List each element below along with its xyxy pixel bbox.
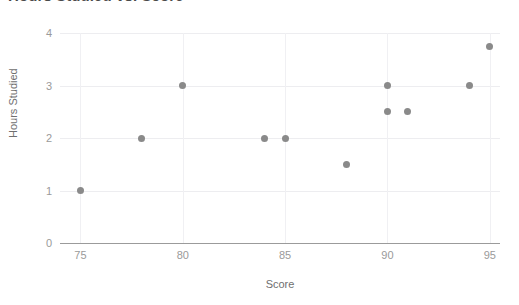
data-point[interactable] bbox=[77, 187, 84, 194]
x-axis-ticks: 7580859095 bbox=[60, 249, 500, 265]
x-axis-label: Score bbox=[0, 278, 519, 290]
axis-baseline bbox=[60, 243, 500, 244]
x-tick-label: 75 bbox=[74, 249, 86, 261]
y-tick-label: 4 bbox=[6, 27, 52, 39]
gridline-vertical bbox=[183, 33, 184, 243]
data-point[interactable] bbox=[282, 135, 289, 142]
scatter-chart: Hours Studied vs. Score 01234 7580859095… bbox=[0, 0, 519, 305]
data-point[interactable] bbox=[261, 135, 268, 142]
chart-title: Hours Studied vs. Score bbox=[8, 0, 184, 4]
data-point[interactable] bbox=[486, 43, 493, 50]
data-point[interactable] bbox=[384, 82, 391, 89]
data-point[interactable] bbox=[466, 82, 473, 89]
data-point[interactable] bbox=[404, 108, 411, 115]
gridline-horizontal bbox=[60, 33, 500, 34]
x-tick-label: 85 bbox=[279, 249, 291, 261]
data-point[interactable] bbox=[138, 135, 145, 142]
gridline-vertical bbox=[387, 33, 388, 243]
data-point[interactable] bbox=[343, 161, 350, 168]
gridline-horizontal bbox=[60, 86, 500, 87]
y-axis-label: Hours Studied bbox=[7, 68, 19, 138]
x-tick-label: 90 bbox=[381, 249, 393, 261]
y-tick-label: 0 bbox=[6, 237, 52, 249]
y-axis-ticks: 01234 bbox=[0, 33, 52, 243]
gridline-vertical bbox=[80, 33, 81, 243]
gridline-horizontal bbox=[60, 191, 500, 192]
gridline-horizontal bbox=[60, 138, 500, 139]
data-point[interactable] bbox=[179, 82, 186, 89]
y-tick-label: 1 bbox=[6, 185, 52, 197]
x-tick-label: 95 bbox=[484, 249, 496, 261]
data-point[interactable] bbox=[384, 108, 391, 115]
gridline-vertical bbox=[490, 33, 491, 243]
x-tick-label: 80 bbox=[177, 249, 189, 261]
plot-area bbox=[60, 33, 500, 243]
